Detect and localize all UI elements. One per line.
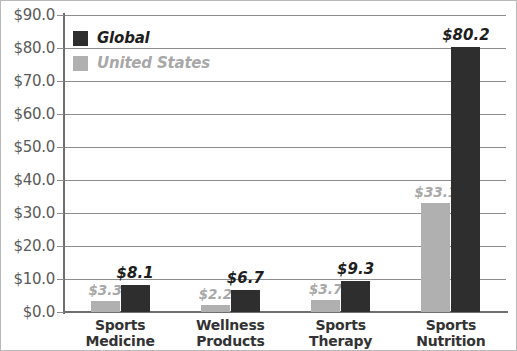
gridline xyxy=(65,81,506,82)
gridline xyxy=(65,114,506,115)
category-label-line: Nutrition xyxy=(396,333,506,349)
bar-value-label-global: $6.7 xyxy=(219,271,272,286)
y-axis-tick-mark xyxy=(57,81,64,82)
y-axis-tick-mark xyxy=(57,279,64,280)
gridline xyxy=(65,180,506,181)
gridline xyxy=(65,147,506,148)
legend-swatch-icon xyxy=(73,56,88,71)
category-label-line: Sports xyxy=(65,317,175,333)
x-axis-category-label: WellnessProducts xyxy=(175,317,285,350)
category-label-line: Sports xyxy=(286,317,396,333)
y-axis-tick-label: $30.0 xyxy=(1,206,55,221)
category-label-line: Wellness xyxy=(175,317,285,333)
y-axis-tick-label: $10.0 xyxy=(1,272,55,287)
y-axis-tick-mark xyxy=(57,147,64,148)
category-label-line: Therapy xyxy=(286,333,396,349)
category-label-line: Sports xyxy=(396,317,506,333)
bar-united-states xyxy=(91,301,120,312)
bar-value-label-global: $80.2 xyxy=(439,28,492,43)
y-axis-tick-mark xyxy=(57,180,64,181)
legend-label: Global xyxy=(97,31,150,46)
bar-global xyxy=(121,285,150,312)
legend-item[interactable]: Global xyxy=(73,27,210,49)
x-axis-category-label: SportsMedicine xyxy=(65,317,175,350)
y-axis-tick-label: $90.0 xyxy=(1,8,55,23)
legend-label: United States xyxy=(97,56,210,71)
y-axis-tick-label: $80.0 xyxy=(1,41,55,56)
bar-global xyxy=(341,281,370,312)
bar-chart: $90.0$80.0$70.0$60.0$50.0$40.0$30.0$20.0… xyxy=(0,0,517,351)
y-axis-tick-label: $0.0 xyxy=(1,305,55,320)
y-axis-tick-label: $70.0 xyxy=(1,74,55,89)
category-label-line: Medicine xyxy=(65,333,175,349)
bar-value-label-global: $8.1 xyxy=(109,266,162,281)
x-axis-category-label: SportsTherapy xyxy=(286,317,396,350)
category-label-line: Products xyxy=(175,333,285,349)
y-axis-tick-mark xyxy=(57,213,64,214)
y-axis-tick-mark xyxy=(57,246,64,247)
x-axis-category-label: SportsNutrition xyxy=(396,317,506,350)
chart-legend: GlobalUnited States xyxy=(73,27,210,77)
y-axis-tick-label: $50.0 xyxy=(1,140,55,155)
bar-united-states xyxy=(201,305,230,312)
bar-united-states xyxy=(421,203,450,312)
legend-swatch-icon xyxy=(73,31,88,46)
y-axis-tick-label: $20.0 xyxy=(1,239,55,254)
gridline xyxy=(65,15,506,16)
bar-global xyxy=(451,47,480,312)
y-axis-tick-label: $60.0 xyxy=(1,107,55,122)
y-axis-tick-labels: $90.0$80.0$70.0$60.0$50.0$40.0$30.0$20.0… xyxy=(1,1,55,351)
y-axis-tick-mark xyxy=(57,48,64,49)
bar-united-states xyxy=(311,300,340,312)
y-axis-tick-mark xyxy=(57,312,64,313)
y-axis-tick-label: $40.0 xyxy=(1,173,55,188)
y-axis-tick-mark xyxy=(57,15,64,16)
legend-item[interactable]: United States xyxy=(73,52,210,74)
bar-value-label-global: $9.3 xyxy=(329,262,382,277)
bar-global xyxy=(231,290,260,312)
y-axis-tick-mark xyxy=(57,114,64,115)
